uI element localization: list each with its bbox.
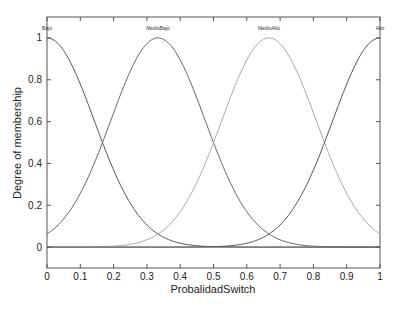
- label-mediobajo: MedioBajo: [146, 25, 170, 31]
- x-tick-label: 0.4: [173, 271, 187, 282]
- x-tick-label: 1: [377, 271, 383, 282]
- x-tick-label: 0.7: [273, 271, 287, 282]
- x-tick-label: 0.8: [306, 271, 320, 282]
- y-tick-label: 1: [36, 32, 42, 43]
- x-axis-ticks: 00.10.20.30.40.50.60.70.80.91: [44, 17, 383, 282]
- label-alto: Alto: [376, 25, 385, 31]
- x-tick-label: 0.5: [207, 271, 221, 282]
- membership-curves: [47, 38, 380, 247]
- x-tick-label: 0: [44, 271, 50, 282]
- y-tick-label: 0.8: [28, 74, 42, 85]
- curve-medioalto: [47, 38, 380, 247]
- y-axis-title: Degree of membership: [11, 87, 23, 199]
- label-medioalto: MedioAlto: [258, 25, 280, 31]
- x-tick-label: 0.6: [240, 271, 254, 282]
- x-axis-title: ProbalidadSwitch: [171, 283, 256, 295]
- y-tick-label: 0.4: [28, 158, 42, 169]
- membership-function-labels: BajoMedioBajoMedioAltoAlto: [42, 25, 385, 31]
- label-bajo: Bajo: [42, 25, 52, 31]
- y-tick-label: 0.6: [28, 116, 42, 127]
- x-tick-label: 0.1: [73, 271, 87, 282]
- y-tick-label: 0.2: [28, 200, 42, 211]
- y-axis-ticks: 00.20.40.60.81: [28, 32, 380, 252]
- membership-function-chart: BajoMedioBajoMedioAltoAlto 00.10.20.30.4…: [0, 0, 398, 309]
- x-tick-label: 0.2: [107, 271, 121, 282]
- x-tick-label: 0.9: [340, 271, 354, 282]
- x-tick-label: 0.3: [140, 271, 154, 282]
- y-tick-label: 0: [36, 242, 42, 253]
